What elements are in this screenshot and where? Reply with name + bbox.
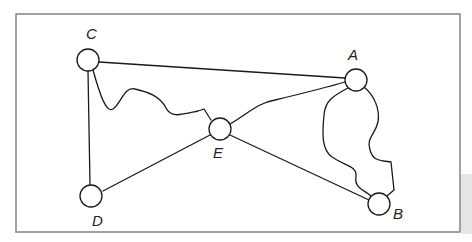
node-a-circle[interactable] bbox=[345, 69, 367, 91]
node-b-label: B bbox=[393, 205, 403, 222]
node-e-circle[interactable] bbox=[209, 118, 231, 140]
node-c-label: C bbox=[86, 25, 97, 42]
node-d-label: D bbox=[92, 212, 103, 229]
node-e-label: E bbox=[213, 144, 224, 161]
node-c-circle[interactable] bbox=[77, 49, 99, 71]
node-a-label: A bbox=[347, 46, 358, 63]
graph-diagram: A B C D E bbox=[0, 0, 472, 242]
node-b-circle[interactable] bbox=[368, 193, 390, 215]
node-d-circle[interactable] bbox=[80, 185, 102, 207]
